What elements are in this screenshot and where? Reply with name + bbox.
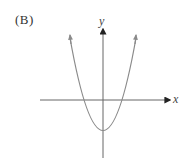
curve-right-arrow-icon	[135, 35, 136, 44]
curve-left-arrow-icon	[70, 35, 71, 44]
parabola-figure: (B) y x	[0, 0, 184, 158]
plot-area	[0, 0, 184, 158]
